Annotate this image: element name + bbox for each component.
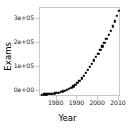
data-point <box>111 25 113 27</box>
data-point <box>82 74 84 76</box>
y-tick-label-2: 2e+05 <box>14 39 34 45</box>
data-point <box>97 52 99 54</box>
data-point <box>76 82 78 84</box>
data-point <box>78 80 80 82</box>
data-point <box>109 29 111 31</box>
plot-area <box>39 7 120 96</box>
y-tick-label-3: 3e+05 <box>14 15 34 21</box>
data-point <box>95 56 97 58</box>
data-point <box>93 59 95 61</box>
y-axis-title: Exams <box>4 32 13 80</box>
data-point <box>105 38 107 40</box>
data-point <box>116 15 118 17</box>
x-tick-label-2: 2000 <box>89 100 104 106</box>
y-tick-label-0: 0e+00 <box>14 87 34 93</box>
data-point <box>87 69 89 71</box>
x-tick-label-3: 2010 <box>110 100 125 106</box>
data-point <box>99 49 101 51</box>
data-point <box>107 33 109 35</box>
data-point <box>103 41 105 43</box>
x-axis-title: Year <box>0 114 135 123</box>
scatter-points-layer <box>40 8 119 95</box>
data-point <box>84 72 86 74</box>
data-point <box>114 20 116 22</box>
data-point <box>91 62 93 64</box>
y-tick-label-1: 1e+05 <box>14 63 34 69</box>
x-tick-label-0: 1980 <box>48 100 63 106</box>
data-point <box>89 66 91 68</box>
x-tick-label-1: 1990 <box>69 100 84 106</box>
data-point <box>80 77 82 79</box>
data-point <box>101 45 103 47</box>
data-point <box>118 9 120 11</box>
chart-figure: 3e+05 2e+05 1e+05 0e+00 1980 1990 2000 2… <box>0 0 135 129</box>
